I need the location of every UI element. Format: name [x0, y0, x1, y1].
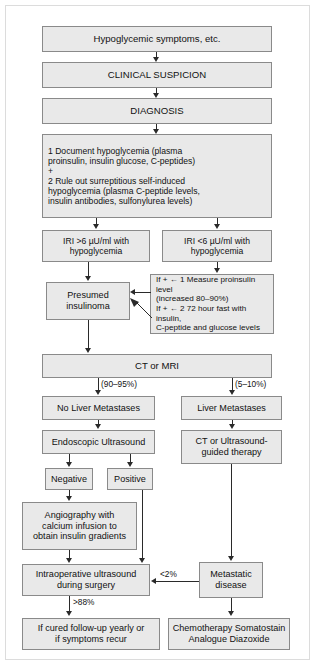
connector-ctus-to-metastatic [231, 464, 232, 556]
connector-angiography-to-intraop [69, 550, 70, 558]
connector-eus-to-negative [69, 454, 70, 462]
arrowhead-angiography-to-intraop [66, 558, 72, 563]
flowchart-page: Hypoglycemic symptoms, etc. CLINICAL SUS… [0, 0, 317, 667]
arrowhead-workup-to-iri-low [214, 224, 220, 229]
node-negative: Negative [45, 468, 93, 490]
connector-ctmri-to-liver [232, 378, 233, 390]
connector-confirm-to-presumed-lower [128, 298, 154, 320]
node-presumed-insulinoma: Presumed insulinoma [46, 282, 130, 320]
arrowhead-ctmri-to-no-liver [95, 390, 101, 395]
node-angiography: Angiography with calcium infusion to obt… [22, 502, 137, 550]
node-endoscopic-ultrasound: Endoscopic Ultrasound [42, 430, 155, 454]
node-iri-high: IRI >6 µU/ml with hypoglycemia [42, 230, 150, 262]
node-hypoglycemic-symptoms: Hypoglycemic symptoms, etc. [42, 26, 272, 52]
arrowhead-positive-to-intraop [139, 558, 145, 563]
node-positive: Positive [107, 468, 153, 490]
arrowhead-no-liver-to-eus [95, 424, 101, 429]
arrowhead-ctus-to-metastatic [228, 556, 234, 561]
node-iri-low: IRI <6 µU/ml with hypoglycemia [162, 230, 272, 262]
node-no-liver-metastases: No Liver Metastases [42, 396, 155, 420]
arrowhead-liver-to-ctus [229, 424, 235, 429]
arrowhead-presumed-to-ctmri [85, 348, 91, 353]
edge-label-metastatic-pct: <2% [160, 569, 177, 579]
edge-label-cured-pct: >88% [73, 597, 94, 607]
arrowhead-iri-high-to-presumed [85, 276, 91, 281]
connector-eus-to-positive [130, 454, 131, 462]
connector-ctmri-to-no-liver [98, 378, 99, 390]
edge-label-liver-pct: (5–10%) [235, 379, 266, 389]
node-chemotherapy: Chemotherapy Somatostain Analogue Diazox… [168, 618, 290, 650]
arrowhead-confirm-to-presumed-upper [130, 289, 135, 295]
connector-metastatic-to-intraop [156, 581, 199, 582]
connector-presumed-to-ctmri [88, 320, 89, 348]
arrowhead-iri-low-to-confirm [214, 268, 220, 273]
node-intraoperative-ultrasound: Intraoperative ultrasound during surgery [22, 564, 150, 596]
arrowhead-metastatic-to-intraop [151, 578, 156, 584]
arrowhead-intraop-to-cured [66, 611, 72, 616]
connector-intraop-to-cured [69, 596, 70, 612]
connector-iri-high-to-presumed [88, 262, 89, 277]
arrowhead-eus-to-negative [66, 462, 72, 467]
arrowhead-diagnosis-to-workup [153, 129, 159, 134]
arrowhead-negative-to-angiography [66, 496, 72, 501]
arrowhead-symptoms-to-suspicion [153, 57, 159, 62]
connector-metastatic-to-chemo [231, 598, 232, 612]
connector-positive-to-intraop [142, 490, 143, 558]
node-ct-or-mri: CT or MRI [42, 354, 272, 378]
node-if-cured: If cured follow-up yearly or if symptoms… [22, 618, 160, 650]
edge-label-no-liver-pct: (90–95%) [101, 379, 137, 389]
node-workup: 1 Document hypoglycemia (plasma proinsul… [42, 134, 272, 218]
node-ct-ultrasound-guided: CT or Ultrasound- guided therapy [181, 430, 282, 464]
arrowhead-metastatic-to-chemo [228, 611, 234, 616]
node-liver-metastases: Liver Metastases [181, 396, 282, 420]
arrowhead-workup-to-iri-high [93, 224, 99, 229]
node-clinical-suspicion: CLINICAL SUSPICION [42, 62, 272, 88]
arrowhead-eus-to-positive [127, 462, 133, 467]
node-confirm-tests: If + ← 1 Measure proinsulin level (incre… [150, 274, 274, 334]
arrowhead-suspicion-to-diagnosis [153, 93, 159, 98]
arrowhead-ctmri-to-liver [229, 390, 235, 395]
node-metastatic-disease: Metastatic disease [199, 562, 263, 598]
connector-confirm-to-presumed-upper [135, 292, 151, 293]
node-diagnosis: DIAGNOSIS [42, 98, 272, 124]
